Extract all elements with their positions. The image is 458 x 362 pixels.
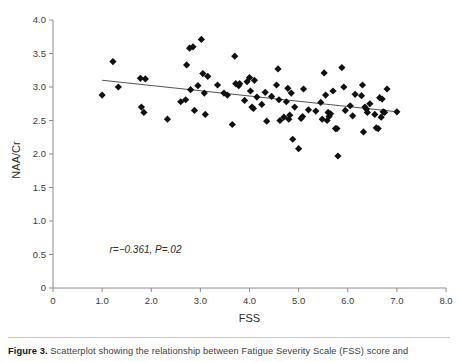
caption-body: Scatterplot showing the relationship bet… — [48, 346, 409, 356]
scatter-point — [329, 87, 336, 94]
x-tick-label: 1.0 — [96, 295, 109, 306]
x-tick-label: 7.0 — [390, 295, 403, 306]
x-tick-label: 8.0 — [439, 295, 452, 306]
scatter-point — [229, 121, 236, 128]
figure-caption: Figure 3. Scatterplot showing the relati… — [8, 345, 452, 357]
scatter-point — [349, 112, 356, 119]
y-tick-label: 0 — [41, 282, 46, 293]
y-tick-label: 0.5 — [33, 249, 46, 260]
scatter-point — [202, 111, 209, 118]
scatter-point — [289, 136, 296, 143]
scatter-point — [253, 93, 260, 100]
x-axis-label: FSS — [239, 312, 260, 324]
scatter-point — [262, 89, 269, 96]
correlation-annotation: r=−0.361, P=.02 — [109, 244, 181, 255]
y-tick-label: 3.0 — [33, 81, 46, 92]
y-axis-label: NAA/Cr — [10, 141, 22, 179]
caption-figure-number: Figure 3. — [8, 346, 48, 356]
scatter-point — [291, 104, 298, 111]
x-tick-label: 2.0 — [145, 295, 158, 306]
scatter-point — [263, 118, 270, 125]
scatter-point — [360, 128, 367, 135]
y-tick-label: 2.5 — [33, 115, 46, 126]
scatter-point — [231, 53, 238, 60]
scatter-point — [338, 64, 345, 71]
scatter-point — [347, 102, 354, 109]
scatter-point — [274, 65, 281, 72]
scatter-point — [183, 61, 190, 68]
scatter-point — [115, 83, 122, 90]
scatter-point — [187, 86, 194, 93]
scatter-point — [393, 108, 400, 115]
scatter-point — [164, 116, 171, 123]
scatter-point — [247, 87, 254, 94]
caption-divider — [8, 337, 450, 338]
y-tick-label: 1.5 — [33, 182, 46, 193]
y-tick-label: 2.0 — [33, 148, 46, 159]
scatter-point — [359, 81, 366, 88]
scatterplot-canvas: 00.51.01.52.02.53.03.54.0 01.02.03.04.05… — [0, 0, 458, 336]
scatter-point — [99, 91, 106, 98]
y-tick-label: 4.0 — [33, 14, 46, 25]
x-tick-label: 6.0 — [341, 295, 354, 306]
scatter-point — [334, 152, 341, 159]
y-tick-label: 1.0 — [33, 215, 46, 226]
scatter-point — [312, 108, 319, 115]
scatter-point — [322, 91, 329, 98]
y-axis-ticks: 00.51.01.52.02.53.03.54.0 — [33, 14, 53, 293]
scatter-point — [383, 85, 390, 92]
y-tick-label: 3.5 — [33, 48, 46, 59]
scatter-point — [317, 99, 324, 106]
scatter-point — [142, 75, 149, 82]
x-tick-label: 3.0 — [194, 295, 207, 306]
scatter-point — [295, 145, 302, 152]
figure-root: 00.51.01.52.02.53.03.54.0 01.02.03.04.05… — [0, 0, 458, 362]
scatter-point — [305, 106, 312, 113]
scatter-point — [340, 83, 347, 90]
x-tick-label: 4.0 — [243, 295, 256, 306]
x-tick-label: 0 — [50, 295, 55, 306]
scatter-point — [321, 69, 328, 76]
x-tick-label: 5.0 — [292, 295, 305, 306]
scatter-point — [214, 81, 221, 88]
scatter-point — [194, 82, 201, 89]
scatter-point — [241, 97, 248, 104]
scatter-point — [109, 58, 116, 65]
scatter-point — [300, 85, 307, 92]
x-axis-ticks: 01.02.03.04.05.06.07.08.0 — [50, 288, 452, 306]
scatter-point — [258, 101, 265, 108]
scatter-point — [198, 36, 205, 43]
scatter-point — [371, 111, 378, 118]
scatter-point — [352, 91, 359, 98]
scatter-point — [191, 107, 198, 114]
scatter-point — [273, 81, 280, 88]
scatter-point — [342, 107, 349, 114]
data-points — [99, 36, 401, 160]
scatter-point — [358, 92, 365, 99]
scatterplot-figure: 00.51.01.52.02.53.03.54.0 01.02.03.04.05… — [0, 0, 458, 336]
scatter-point — [275, 96, 282, 103]
